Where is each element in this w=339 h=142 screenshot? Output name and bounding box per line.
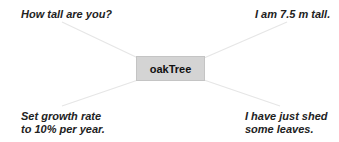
connector-top-left [62,22,138,58]
message-line: some leaves. [245,123,328,136]
connector-top-right [204,22,287,58]
message-text: How tall are you? [21,8,112,20]
message-top-left: How tall are you? [21,8,112,21]
object-box: oakTree [136,56,205,81]
message-line: I have just shed [245,110,328,123]
message-line: Set growth rate [21,110,105,123]
object-message-diagram: oakTree How tall are you? I am 7.5 m tal… [0,0,339,142]
message-bottom-right: I have just shed some leaves. [245,110,328,136]
message-text: I am 7.5 m tall. [255,8,330,20]
object-label: oakTree [150,63,192,75]
message-top-right: I am 7.5 m tall. [255,8,330,21]
message-bottom-left: Set growth rate to 10% per year. [21,110,105,136]
connector-bottom-right [204,80,280,106]
connector-bottom-left [62,80,138,106]
message-line: to 10% per year. [21,123,105,136]
